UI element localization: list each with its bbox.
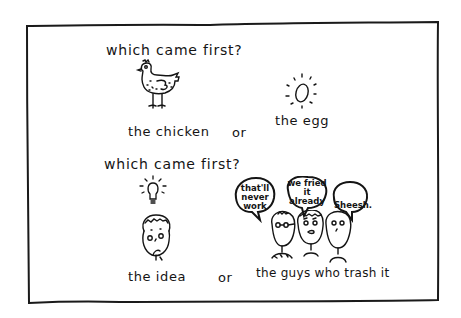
speech-bubble-2: we fried it already (287, 179, 327, 206)
critics-group-icon (268, 210, 368, 266)
option-egg: the egg (275, 113, 329, 128)
option-guys-who-trash-it: the guys who trash it (256, 266, 389, 280)
speech-bubble-1: that'll never work (238, 184, 272, 211)
question-top: which came first? (106, 42, 243, 58)
chicken-icon (135, 59, 185, 117)
lightbulb-icon (138, 175, 168, 207)
speech-bubble-3: Sheesh. (334, 201, 370, 210)
thinking-person-icon (136, 213, 176, 263)
connector-or-bottom: or (218, 270, 233, 285)
egg-icon (282, 72, 322, 112)
option-idea: the idea (128, 269, 186, 284)
connector-or-top: or (232, 125, 247, 140)
option-chicken: the chicken (128, 124, 210, 139)
question-bottom: which came first? (104, 156, 241, 172)
